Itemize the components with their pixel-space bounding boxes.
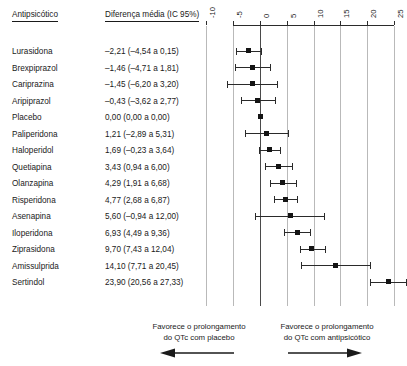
x-axis-tick <box>367 21 368 25</box>
row-label-olanzapina: Olanzapina <box>12 179 53 189</box>
confidence-interval-cap <box>261 48 262 55</box>
row-value-cariprazina: –1,45 (–6,20 a 3,20) <box>105 80 179 90</box>
point-estimate-marker <box>295 230 300 235</box>
x-axis-tick <box>340 21 341 25</box>
confidence-interval-cap <box>325 246 326 253</box>
row-value-ziprasidona: 9,70 (7,43 a 12,04) <box>105 245 174 255</box>
confidence-interval-cap <box>288 130 289 137</box>
confidence-interval-cap <box>275 97 276 104</box>
row-label-sertindol: Sertindol <box>12 278 44 288</box>
row-value-amissulprida: 14,10 (7,71 a 20,45) <box>105 262 179 272</box>
confidence-interval-cap <box>300 246 301 253</box>
confidence-interval-cap <box>245 130 246 137</box>
confidence-interval-cap <box>241 97 242 104</box>
point-estimate-marker <box>264 131 269 136</box>
confidence-interval-cap <box>277 81 278 88</box>
confidence-interval-cap <box>297 196 298 203</box>
point-estimate-marker <box>386 279 391 284</box>
gridline <box>394 26 395 306</box>
footnote-favors-placebo: Favorece o prolongamento do QTc com plac… <box>140 322 258 343</box>
point-estimate-marker <box>250 65 255 70</box>
confidence-interval-cap <box>296 180 297 187</box>
arrow-right-icon <box>288 345 362 363</box>
row-label-paliperidona: Paliperidona <box>12 130 58 140</box>
confidence-interval-cap <box>292 163 293 170</box>
point-estimate-marker <box>309 246 314 251</box>
point-estimate-marker <box>280 180 285 185</box>
confidence-interval-cap <box>270 64 271 71</box>
row-label-risperidona: Risperidona <box>12 196 56 206</box>
x-axis-tick-label: 5 <box>290 14 298 18</box>
point-estimate-marker <box>283 197 288 202</box>
x-axis-tick <box>260 21 261 25</box>
row-value-iloperidona: 6,93 (4,49 a 9,36) <box>105 229 170 239</box>
point-estimate-marker <box>288 213 293 218</box>
x-axis-tick-label: 10 <box>317 10 325 18</box>
row-value-olanzapina: 4,29 (1,91 a 6,68) <box>105 179 170 189</box>
point-estimate-marker <box>258 114 263 119</box>
point-estimate-marker <box>250 81 255 86</box>
x-axis-tick <box>394 21 395 25</box>
x-axis-tick <box>233 21 234 25</box>
point-estimate-marker <box>246 48 251 53</box>
gridline <box>340 26 341 306</box>
row-value-risperidona: 4,77 (2,68 a 6,87) <box>105 196 170 206</box>
arrow-left-icon <box>160 345 234 363</box>
confidence-interval-cap <box>227 81 228 88</box>
x-axis-tick-label: 20 <box>370 10 378 18</box>
row-label-iloperidona: Iloperidona <box>12 229 53 239</box>
row-label-placebo: Placebo <box>12 113 42 123</box>
x-axis-tick <box>206 21 207 25</box>
row-label-quetiapina: Quetiapina <box>12 163 52 173</box>
row-value-placebo: 0,00 (0,00 a 0,00) <box>105 113 170 123</box>
row-value-asenapina: 5,60 (–0,94 a 12,00) <box>105 212 179 222</box>
confidence-interval-cap <box>324 213 325 220</box>
row-value-sertindol: 23,90 (20,56 a 27,33) <box>105 278 183 288</box>
point-estimate-marker <box>276 164 281 169</box>
confidence-interval-cap <box>310 229 311 236</box>
row-value-lurasidona: –2,21 (–4,54 a 0,15) <box>105 47 179 57</box>
row-value-paliperidona: 1,21 (–2,89 a 5,31) <box>105 130 174 140</box>
confidence-interval-cap <box>259 147 260 154</box>
x-axis-tick-label: 25 <box>397 10 405 18</box>
confidence-interval-cap <box>370 279 371 286</box>
x-axis-tick <box>314 21 315 25</box>
confidence-interval-cap <box>236 48 237 55</box>
row-label-brexpiprazol: Brexpiprazol <box>12 64 58 74</box>
row-value-haloperidol: 1,69 (–0,23 a 3,64) <box>105 146 174 156</box>
row-label-amissulprida: Amissulprida <box>12 262 59 272</box>
row-label-cariprazina: Cariprazina <box>12 80 54 90</box>
row-label-asenapina: Asenapina <box>12 212 51 222</box>
row-value-brexpiprazol: –1,46 (–4,71 a 1,81) <box>105 64 179 74</box>
gridline <box>367 26 368 306</box>
row-label-haloperidol: Haloperidol <box>12 146 53 156</box>
point-estimate-marker <box>333 263 338 268</box>
point-estimate-marker <box>267 147 272 152</box>
footnote-favors-antipsychotic: Favorece o prolongamento do QTc com anti… <box>262 322 392 343</box>
gridline <box>314 26 315 306</box>
confidence-interval-cap <box>235 64 236 71</box>
confidence-interval-cap <box>265 163 266 170</box>
x-axis-tick <box>287 21 288 25</box>
row-label-lurasidona: Lurasidona <box>12 47 53 57</box>
row-label-aripiprazol: Aripiprazol <box>12 97 51 107</box>
row-value-aripiprazol: –0,43 (–3,62 a 2,77) <box>105 97 179 107</box>
row-value-quetiapina: 3,43 (0,94 a 6,00) <box>105 163 170 173</box>
x-axis-tick-label: 0 <box>263 14 271 18</box>
confidence-interval-cap <box>284 229 285 236</box>
confidence-interval-cap <box>370 262 371 269</box>
confidence-interval-cap <box>255 213 256 220</box>
confidence-interval-cap <box>301 262 302 269</box>
confidence-interval-cap <box>270 180 271 187</box>
x-axis-tick-label: -5 <box>236 11 244 18</box>
x-axis-tick-label: 15 <box>343 10 351 18</box>
gridline <box>206 26 207 306</box>
row-label-ziprasidona: Ziprasidona <box>12 245 55 255</box>
x-axis-tick-label: -10 <box>209 7 217 18</box>
confidence-interval-cap <box>274 196 275 203</box>
point-estimate-marker <box>255 98 260 103</box>
confidence-interval-cap <box>280 147 281 154</box>
